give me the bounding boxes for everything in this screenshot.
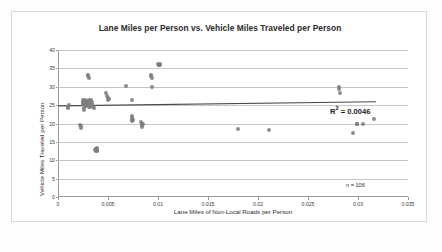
data-point bbox=[141, 122, 145, 126]
x-tick-label: 0.03 bbox=[353, 201, 363, 207]
data-point bbox=[150, 76, 154, 80]
y-tick-label: 20 bbox=[49, 121, 55, 127]
data-point bbox=[338, 91, 342, 95]
data-point bbox=[355, 122, 359, 126]
x-tick-mark bbox=[408, 197, 409, 200]
x-tick-label: 0.015 bbox=[202, 201, 215, 207]
r-squared-annotation: R2 = 0.0046 bbox=[330, 105, 371, 116]
data-point bbox=[158, 62, 162, 66]
data-point bbox=[95, 148, 99, 152]
x-tick-label: 0 bbox=[57, 201, 60, 207]
x-tick-mark bbox=[158, 197, 159, 200]
y-tick-label: 15 bbox=[49, 139, 55, 145]
x-tick-mark bbox=[58, 197, 59, 200]
chart-frame: Lane Miles per Person vs. Vehicle Miles … bbox=[11, 11, 427, 222]
data-point bbox=[79, 126, 83, 130]
x-tick-mark bbox=[208, 197, 209, 200]
data-point bbox=[92, 106, 96, 110]
x-tick-label: 0.005 bbox=[102, 201, 115, 207]
y-tick-label: 40 bbox=[49, 47, 55, 53]
x-tick-label: 0.035 bbox=[402, 201, 415, 207]
sample-size-annotation: n = 106 bbox=[346, 182, 365, 188]
x-tick-mark bbox=[258, 197, 259, 200]
plot-area: 0510152025303540 00.0050.010.0150.020.02… bbox=[58, 50, 408, 197]
figure-canvas: Lane Miles per Person vs. Vehicle Miles … bbox=[0, 0, 442, 252]
y-tick-label: 0 bbox=[52, 194, 55, 200]
x-tick-mark bbox=[308, 197, 309, 200]
x-tick-label: 0.01 bbox=[153, 201, 163, 207]
data-point bbox=[107, 97, 111, 101]
data-point bbox=[131, 118, 135, 122]
y-tick-label: 30 bbox=[49, 84, 55, 90]
x-tick-mark bbox=[108, 197, 109, 200]
y-tick-label: 10 bbox=[49, 157, 55, 163]
data-point bbox=[372, 117, 376, 121]
x-tick-label: 0.02 bbox=[253, 201, 263, 207]
r-squared-value: = 0.0046 bbox=[339, 107, 371, 116]
data-point bbox=[87, 76, 91, 80]
chart-title: Lane Miles per Person vs. Vehicle Miles … bbox=[12, 23, 428, 33]
y-tick-label: 5 bbox=[52, 176, 55, 182]
y-tick-label: 35 bbox=[49, 65, 55, 71]
x-tick-label: 0.025 bbox=[302, 201, 315, 207]
data-point bbox=[236, 127, 240, 131]
y-tick-label: 25 bbox=[49, 102, 55, 108]
x-axis-title: Lane Miles of Non-Local Roads per Person bbox=[58, 208, 408, 215]
y-axis-title: Vehicle Miles Traveled per Person bbox=[38, 102, 45, 196]
x-tick-mark bbox=[358, 197, 359, 200]
